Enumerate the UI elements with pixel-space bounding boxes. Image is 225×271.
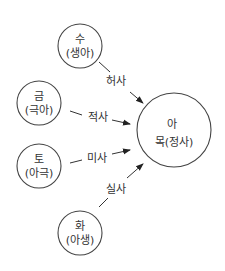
node-su-label-1: 수 — [75, 33, 85, 46]
node-su-circle — [58, 24, 102, 68]
edge-geum: 적사 — [70, 111, 130, 124]
edge-su-label: 허사 — [106, 75, 126, 88]
edge-hwa-label: 실사 — [106, 183, 126, 196]
node-geum-circle — [17, 81, 61, 125]
edge-geum-label: 적사 — [88, 111, 108, 124]
center-node: 아 목(정사) — [137, 93, 211, 167]
node-geum: 금 (극아) — [17, 81, 61, 125]
edge-to: 미사 — [70, 150, 130, 165]
edge-su: 허사 — [99, 62, 143, 103]
center-node-label-2: 목(정사) — [155, 136, 194, 149]
edge-su-line-a — [99, 62, 110, 72]
node-hwa-circle — [58, 211, 102, 255]
node-to-label-1: 토 — [34, 153, 44, 166]
center-node-label-1: 아 — [167, 118, 177, 131]
node-hwa: 화 (아생) — [58, 211, 102, 255]
edge-hwa-line-a — [99, 198, 108, 207]
node-to-label-2: (아극) — [25, 167, 54, 180]
edge-to-line-a — [70, 160, 82, 163]
edge-hwa: 실사 — [99, 164, 143, 207]
node-su: 수 (생아) — [58, 24, 102, 68]
node-to-circle — [17, 144, 61, 188]
node-hwa-label-1: 화 — [75, 220, 85, 233]
edge-to-label: 미사 — [87, 152, 107, 165]
edge-hwa-arrow — [127, 164, 143, 178]
node-hwa-label-2: (아생) — [66, 234, 95, 247]
edge-su-arrow — [130, 92, 143, 103]
edge-to-arrow — [112, 150, 130, 154]
diagram: 아 목(정사) 수 (생아) 금 (극아) 토 (아극) 화 (아생) 허사 적… — [0, 0, 225, 271]
node-geum-label-1: 금 — [34, 90, 44, 103]
edge-geum-line-a — [70, 111, 82, 115]
node-to: 토 (아극) — [17, 144, 61, 188]
node-su-label-2: (생아) — [66, 47, 95, 60]
node-geum-label-2: (극아) — [25, 104, 54, 117]
edge-geum-arrow — [112, 120, 130, 124]
